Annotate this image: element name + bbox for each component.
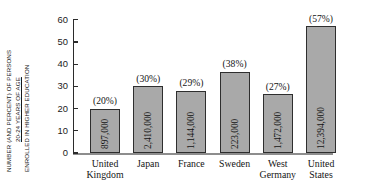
category-label-line: States [308,169,335,181]
y-tick-label: 40 [48,59,68,69]
y-axis-title: NUMBER (AND PERCENT) OF PERSONS 20-24 YE… [0,0,42,180]
category-label-line: Sweden [219,158,250,170]
category-label: UnitedKingdom [86,158,123,181]
y-axis-title-line-2: 20-24 YEARS OF AGE [14,77,21,142]
bar-percent-label: (27%) [266,81,290,92]
category-label: France [178,158,205,170]
category-label-line: United [86,158,123,170]
y-tick-label-text: 60 [48,15,68,24]
category-label: UnitedStates [308,158,335,181]
bar-percent-label: (38%) [223,58,247,69]
category-label: Sweden [219,158,250,170]
y-tick-label: 30 [48,81,68,91]
bar-percent-label: (57%) [309,13,333,24]
category-label-line: Kingdom [86,169,123,181]
category-label-line: Japan [137,158,159,170]
bar-percent-label: (29%) [179,77,203,88]
y-axis-title-line-1: NUMBER (AND PERCENT) OF PERSONS [5,50,12,172]
y-tick-label: 10 [48,126,68,136]
y-tick-label-text: 30 [48,81,68,90]
bar-chart: NUMBER (AND PERCENT) OF PERSONS 20-24 YE… [0,0,381,194]
category-label-line: France [178,158,205,170]
y-tick-label: 20 [48,104,68,114]
y-tick-label: 0 [48,148,68,158]
y-tick-label: 50 [48,37,68,47]
category-label-line: United [308,158,335,170]
bar-percent-label: (30%) [136,73,160,84]
bar-count-label-text: 12,394,000 [316,107,326,149]
y-tick-label: 60 [48,15,68,25]
category-label-line: West [260,158,296,170]
bar-count-label-text: 1,472,000 [273,112,283,149]
y-axis-title-line-3: ENROLLED IN HIGHER EDUCATION [23,65,30,172]
category-label-line: Germany [260,169,296,181]
y-tick-label-text: 50 [48,37,68,46]
category-label: Japan [137,158,159,170]
bar-count-label-text: 1,144,000 [186,112,196,149]
bar-count-label-text: 223,000 [230,119,240,149]
category-label: WestGermany [260,158,296,181]
bar-count-label-text: 2,410,000 [143,112,153,149]
bar-count-label-text: 897,000 [100,119,110,149]
y-tick-label-text: 20 [48,104,68,113]
y-tick-label-text: 40 [48,59,68,68]
bar-percent-label: (20%) [93,95,117,106]
y-tick-label-text: 0 [48,148,68,157]
y-tick-label-text: 10 [48,126,68,135]
